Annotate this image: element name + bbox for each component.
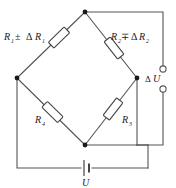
resistor-r1-operator: ± (15, 31, 21, 42)
resistor-r2-label-group: R 2 ∓ Δ R 2 (110, 31, 149, 44)
resistor-r1-delta-symbol: Δ (26, 31, 33, 42)
resistor-r3-label-base: R (121, 114, 128, 125)
wire-left-node-to-source (17, 78, 81, 168)
resistor-r3-label-group: R 3 (121, 114, 132, 127)
battery-symbol (84, 160, 89, 176)
resistor-r3-body (103, 98, 123, 120)
output-voltage-label-group: Δ U (145, 73, 161, 84)
output-voltage-delta-symbol: Δ (145, 74, 151, 84)
resistor-r3-label-sub: 3 (128, 121, 132, 127)
resistor-r1-delta-sub: 1 (42, 38, 45, 44)
node-left (15, 76, 20, 81)
resistor-r4-label-group: R 4 (34, 114, 45, 127)
node-top (83, 10, 88, 15)
node-right (135, 76, 140, 81)
resistor-r1-label-group: R 1 ± Δ R 1 (3, 31, 45, 44)
resistor-r1-label-base: R (3, 31, 10, 42)
source-voltage-label: U (82, 177, 90, 188)
output-terminal-lower[interactable] (160, 86, 166, 92)
resistor-r2-delta-sub: 2 (146, 38, 149, 44)
resistor-r2-delta-symbol: Δ (131, 31, 138, 42)
resistor-r2-operator: ∓ (121, 31, 129, 42)
circuit-svg: R 1 ± Δ R 1 R 2 ∓ Δ R 2 R 4 R 3 Δ U U (0, 0, 176, 188)
wire-terminal-lower-to-bottom-rail (137, 92, 163, 145)
resistor-r4-body (42, 101, 63, 122)
output-terminal-upper[interactable] (160, 66, 166, 72)
resistor-r1-body (48, 27, 69, 48)
resistor-r2-delta-base: R (138, 31, 145, 42)
resistor-r2-label-base: R (110, 31, 117, 42)
resistor-r1-delta-base: R (34, 31, 41, 42)
circuit-diagram: R 1 ± Δ R 1 R 2 ∓ Δ R 2 R 4 R 3 Δ U U (0, 0, 176, 188)
resistor-r1-label-sub: 1 (11, 38, 14, 44)
resistor-r4-label-base: R (34, 114, 41, 125)
node-bottom (83, 143, 88, 148)
output-voltage-label-base: U (153, 73, 161, 84)
resistor-r4-label-sub: 4 (42, 121, 45, 127)
